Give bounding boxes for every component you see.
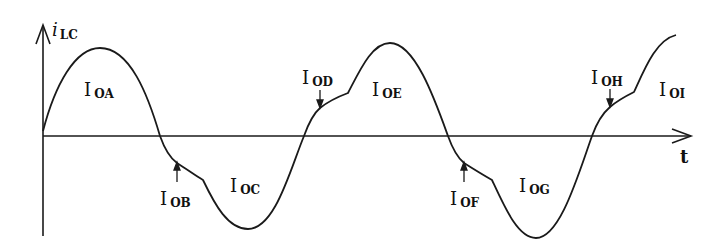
current-waveform-diagram: iLC t IOAIOBIOCIODIOEIOFIOGIOHIOI xyxy=(0,0,722,248)
region-label-i: IOI xyxy=(659,79,686,101)
x-axis-label: t xyxy=(680,146,689,167)
region-label-f: IOF xyxy=(450,188,480,210)
region-label-e: IOE xyxy=(372,79,402,101)
region-label-h: IOH xyxy=(591,67,623,89)
y-axis-label: iLC xyxy=(52,19,78,42)
region-label-b: IOB xyxy=(160,188,191,210)
region-label-c: IOC xyxy=(230,175,260,197)
region-label-d: IOD xyxy=(302,67,333,89)
region-label-g: IOG xyxy=(519,175,550,197)
region-label-a: IOA xyxy=(84,79,115,101)
region-labels: IOAIOBIOCIODIOEIOFIOGIOHIOI xyxy=(84,67,686,210)
